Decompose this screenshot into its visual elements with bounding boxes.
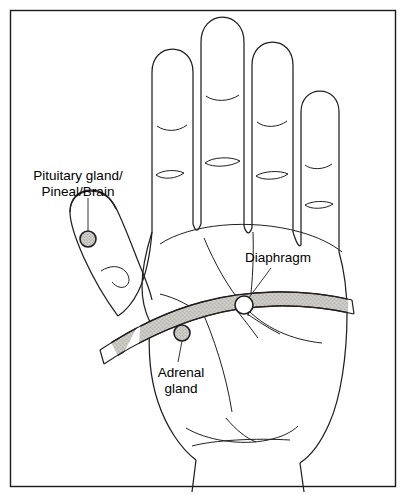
leader-adrenal [178, 341, 182, 362]
label-pituitary-line1: Pituitary gland/ [33, 168, 123, 183]
marker-adrenal-gland[interactable] [174, 325, 190, 341]
hand-diagram-canvas: Pituitary gland/ Pineal/Brain Diaphragm … [0, 0, 409, 496]
hand-reflexology-figure: Pituitary gland/ Pineal/Brain Diaphragm … [0, 0, 409, 496]
label-adrenal-line2: gland [164, 381, 197, 396]
label-pituitary-line2: Pineal/Brain [42, 184, 115, 199]
marker-pituitary-gland[interactable] [80, 231, 96, 247]
label-diaphragm: Diaphragm [245, 250, 311, 265]
marker-diaphragm[interactable] [235, 296, 253, 314]
label-adrenal-line1: Adrenal [158, 365, 205, 380]
